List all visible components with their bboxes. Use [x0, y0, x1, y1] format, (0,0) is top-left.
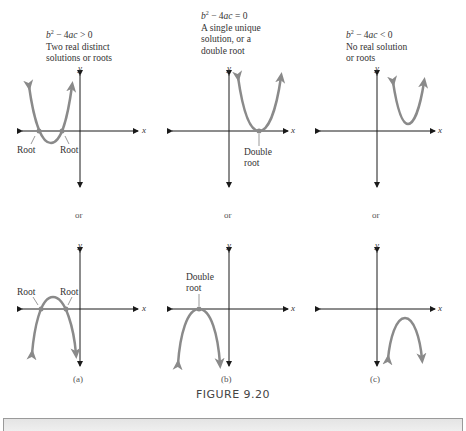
root-point — [64, 307, 69, 312]
graph-b-bottom — [172, 252, 288, 366]
graph-a-top — [22, 75, 138, 187]
graph-a-bottom — [22, 252, 138, 366]
x-axis-label-b-top: x — [291, 125, 295, 135]
root-point — [39, 307, 44, 312]
double-root-point — [257, 129, 262, 134]
or-separator-b: or — [224, 210, 232, 220]
or-separator-a: or — [75, 210, 83, 220]
graph-c-top — [320, 75, 435, 187]
or-separator-c: or — [372, 210, 380, 220]
x-axis-label-c-top: x — [438, 125, 442, 135]
parabola-down — [388, 318, 422, 359]
parabola-up — [29, 86, 72, 143]
figure-caption: FIGURE 9.20 — [0, 388, 466, 401]
parabola-down — [178, 309, 220, 364]
root-label: Root — [17, 145, 35, 155]
root-label: Root — [60, 145, 78, 155]
parabola-up — [238, 77, 281, 131]
root-label: Root — [60, 287, 78, 297]
y-axis-label-b-top: y — [227, 63, 231, 73]
sublabel-b: (b) — [221, 374, 232, 384]
root-label: Root — [17, 287, 35, 297]
x-axis-label-a-top: x — [142, 125, 146, 135]
y-axis-label-b-bottom: y — [227, 240, 231, 250]
x-axis-label-c-bottom: x — [438, 303, 442, 313]
root-point — [37, 129, 42, 134]
bottom-panel — [3, 418, 463, 431]
parabola-down — [32, 297, 76, 354]
double-root-point — [197, 307, 202, 312]
root-point — [60, 129, 65, 134]
y-axis-label-c-top: y — [375, 63, 379, 73]
x-axis-label-b-bottom: x — [291, 303, 295, 313]
parabola-up — [393, 82, 424, 124]
sublabel-a: (a) — [73, 374, 83, 384]
sublabel-c: (c) — [370, 374, 380, 384]
y-axis-label-a-bottom: y — [78, 240, 82, 250]
y-axis-label-c-bottom: y — [375, 240, 379, 250]
x-axis-label-a-bottom: x — [142, 303, 146, 313]
double-root-label: Double root — [244, 147, 272, 169]
double-root-label: Double root — [186, 272, 214, 294]
graph-b-top — [172, 75, 288, 187]
graph-c-bottom — [320, 252, 435, 366]
y-axis-label-a-top: y — [78, 63, 82, 73]
